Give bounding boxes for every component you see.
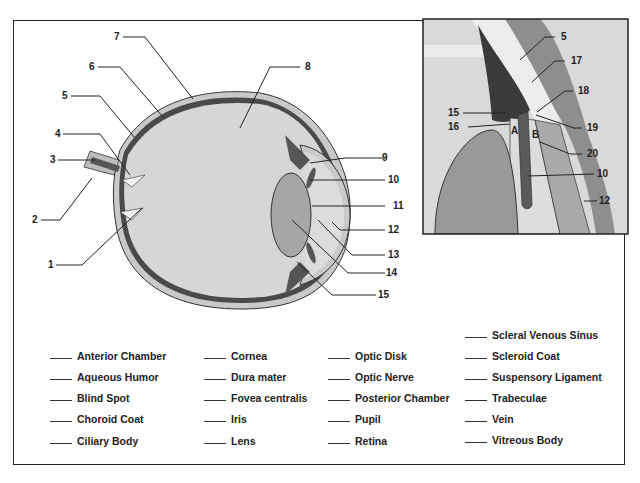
answer-blank[interactable] xyxy=(50,443,72,444)
answer-blank[interactable] xyxy=(328,358,350,359)
answer-blank[interactable] xyxy=(328,421,350,422)
svg-text:16: 16 xyxy=(448,121,460,132)
answer-blank[interactable] xyxy=(204,400,226,401)
svg-text:18: 18 xyxy=(578,85,590,96)
svg-text:19: 19 xyxy=(587,122,599,133)
answer-blank[interactable] xyxy=(328,443,350,444)
answer-blank[interactable] xyxy=(50,400,72,401)
legend-item: Dura mater xyxy=(204,371,286,383)
eye-diagram: 1 2 3 4 5 6 7 8 9 10 11 12 13 14 15 xyxy=(0,0,640,483)
svg-text:7: 7 xyxy=(114,31,120,42)
legend-item: Vein xyxy=(465,413,514,425)
answer-blank[interactable] xyxy=(328,400,350,401)
svg-text:8: 8 xyxy=(305,61,311,72)
legend-item: Anterior Chamber xyxy=(50,350,166,362)
answer-blank[interactable] xyxy=(465,421,487,422)
legend-item: Posterior Chamber xyxy=(328,392,450,404)
answer-blank[interactable] xyxy=(204,379,226,380)
answer-blank[interactable] xyxy=(50,421,72,422)
svg-text:17: 17 xyxy=(571,55,583,66)
answer-blank[interactable] xyxy=(465,379,487,380)
legend-item: Aqueous Humor xyxy=(50,371,159,383)
svg-text:14: 14 xyxy=(386,267,398,278)
svg-text:4: 4 xyxy=(55,128,61,139)
answer-blank[interactable] xyxy=(465,442,487,443)
svg-text:B: B xyxy=(532,129,539,140)
answer-blank[interactable] xyxy=(328,379,350,380)
answer-blank[interactable] xyxy=(204,443,226,444)
svg-text:10: 10 xyxy=(388,174,400,185)
legend-item: Lens xyxy=(204,435,256,447)
answer-blank[interactable] xyxy=(204,358,226,359)
svg-text:10: 10 xyxy=(597,168,609,179)
svg-text:15: 15 xyxy=(378,289,390,300)
legend-item: Optic Nerve xyxy=(328,371,414,383)
answer-blank[interactable] xyxy=(465,400,487,401)
legend-item: Choroid Coat xyxy=(50,413,144,425)
legend-item: Fovea centralis xyxy=(204,392,307,404)
legend-item: Trabeculae xyxy=(465,392,547,404)
answer-blank[interactable] xyxy=(50,358,72,359)
svg-text:1: 1 xyxy=(48,259,54,270)
svg-text:11: 11 xyxy=(393,200,404,211)
legend-item: Iris xyxy=(204,413,247,425)
answer-blank[interactable] xyxy=(465,337,487,338)
svg-text:5: 5 xyxy=(561,31,567,42)
legend-item: Suspensory Ligament xyxy=(465,371,602,383)
legend-item: Optic Disk xyxy=(328,350,407,362)
answer-blank[interactable] xyxy=(50,379,72,380)
legend-item: Retina xyxy=(328,435,387,447)
svg-text:15: 15 xyxy=(448,107,460,118)
legend-item: Cornea xyxy=(204,350,267,362)
svg-text:9: 9 xyxy=(382,152,388,163)
svg-text:2: 2 xyxy=(32,214,38,225)
svg-text:A: A xyxy=(511,125,518,136)
answer-blank[interactable] xyxy=(204,421,226,422)
legend-item: Scleroid Coat xyxy=(465,350,560,362)
svg-text:3: 3 xyxy=(50,154,56,165)
legend-item: Blind Spot xyxy=(50,392,130,404)
svg-text:6: 6 xyxy=(89,61,95,72)
svg-text:12: 12 xyxy=(599,195,611,206)
svg-text:20: 20 xyxy=(587,148,599,159)
legend-item: Ciliary Body xyxy=(50,435,138,447)
svg-text:5: 5 xyxy=(62,90,68,101)
svg-text:13: 13 xyxy=(388,249,400,260)
answer-blank[interactable] xyxy=(465,358,487,359)
legend-item: Scleral Venous Sinus xyxy=(465,329,598,341)
legend-item: Pupil xyxy=(328,413,381,425)
legend-item: Vitreous Body xyxy=(465,434,563,446)
svg-text:12: 12 xyxy=(388,224,400,235)
